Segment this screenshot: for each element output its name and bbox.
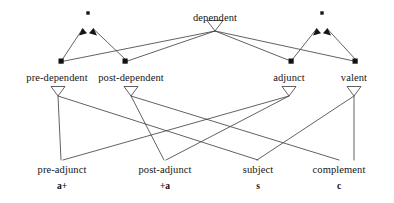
node-label-post-adjunct: post-adjunct <box>138 164 191 175</box>
hollow-triangle-valent-icon <box>347 87 361 97</box>
square-marker-post-dependent-icon <box>123 59 128 64</box>
square-marker-pre-dependent-icon <box>59 59 64 64</box>
node-label-adjunct: adjunct <box>273 72 305 83</box>
edge-group-right-join <box>292 29 356 60</box>
feature-label-complement: c <box>337 181 341 191</box>
edge-valent-subject <box>257 96 354 160</box>
hollow-triangle-group-level2 <box>51 87 361 97</box>
edge-post-dependent-complement <box>131 96 339 160</box>
feature-label-pre-adjunct: a+ <box>57 181 67 191</box>
edge-group-top-to-level2 <box>62 31 356 62</box>
edge-dependent-adjunct <box>215 31 292 62</box>
hollow-triangle-pre-dependent-icon <box>51 87 65 97</box>
edge-pre-dependent-pre-adjunct <box>58 96 61 160</box>
edge-valent-to-right-join <box>328 29 357 60</box>
hollow-triangle-adjunct-icon <box>282 87 296 97</box>
edge-adjunct-pre-adjunct <box>63 96 289 160</box>
hollow-triangle-post-dependent-icon <box>124 87 138 97</box>
node-label-valent: valent <box>341 72 367 83</box>
node-label-pre-adjunct: pre-adjunct <box>38 164 87 175</box>
node-label-subject: subject <box>243 164 273 175</box>
edge-pre-dependent-to-left-join <box>62 29 83 60</box>
node-label-post-dependent: post-dependent <box>98 72 164 83</box>
edge-post-dependent-to-left-join <box>94 29 127 60</box>
node-label-dependent: dependent <box>193 12 237 23</box>
edge-adjunct-to-right-join <box>292 29 317 60</box>
arrowhead-left-outer-icon <box>89 28 97 36</box>
edge-group-level2-to-level3 <box>58 96 354 160</box>
feature-label-subject: s <box>256 181 260 191</box>
arrowhead-left-inner-icon <box>79 28 87 36</box>
square-marker-adjunct-icon <box>289 59 294 64</box>
feature-label-post-adjunct: +a <box>160 181 170 191</box>
left-join-dot-icon <box>86 11 89 14</box>
square-marker-valent-icon <box>353 59 358 64</box>
square-marker-group <box>59 59 358 64</box>
node-label-pre-dependent: pre-dependent <box>26 72 87 83</box>
node-label-complement: complement <box>313 164 366 175</box>
edge-dependent-valent <box>215 31 356 62</box>
right-join-dot-icon <box>320 11 323 14</box>
lattice-diagram: dependent pre-dependent post-dependent a… <box>0 0 394 203</box>
